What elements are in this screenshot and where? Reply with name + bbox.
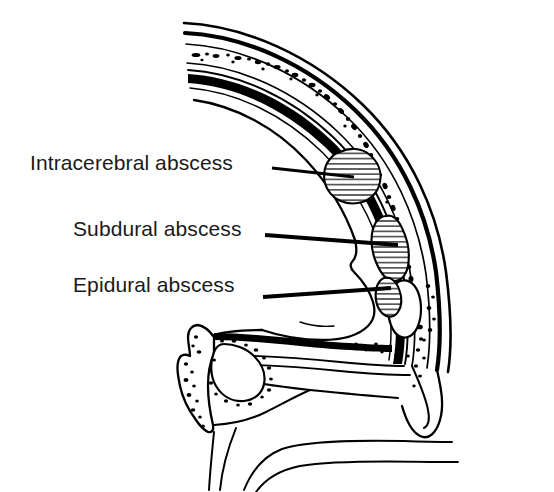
label-epidural-abscess: Epidural abscess [73, 273, 235, 296]
epidural-abscess-shape [376, 278, 402, 317]
palate-upper-line [264, 384, 398, 398]
subdural-abscess-shape [372, 216, 409, 282]
mandible-upper-line [244, 441, 452, 490]
brain-base-mark [300, 322, 334, 326]
label-subdural-abscess: Subdural abscess [73, 217, 242, 240]
mandible-lower-line [256, 461, 458, 492]
frontal-sinus-cavity [211, 344, 264, 401]
face-profile-anterior [209, 432, 214, 490]
face-profile-second [220, 428, 236, 490]
skull-drawing: Intracerebral abscess Subdural abscess E… [30, 23, 458, 492]
anatomical-figure: Intracerebral abscess Subdural abscess E… [0, 0, 554, 492]
frontal-nasal-bone [177, 325, 214, 432]
skull-section-illustration: Intracerebral abscess Subdural abscess E… [0, 0, 554, 492]
label-intracerebral-abscess: Intracerebral abscess [30, 151, 233, 174]
posterior-bone-taper-outer [402, 370, 442, 437]
